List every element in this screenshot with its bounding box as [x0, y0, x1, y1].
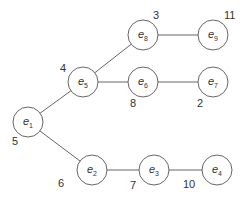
- node-e7: e7: [198, 67, 228, 97]
- node-e8: e8: [128, 20, 158, 50]
- weight-label-e8: 3: [153, 9, 159, 21]
- weight-label-e1: 5: [12, 135, 18, 147]
- node-subscript: 9: [214, 35, 218, 42]
- node-subscript: 3: [155, 170, 159, 177]
- node-subscript: 7: [214, 82, 218, 89]
- weight-label-e6: 8: [130, 97, 136, 109]
- edges-layer: [40, 35, 202, 170]
- node-e1: e1: [13, 107, 43, 137]
- node-e2: e2: [77, 155, 107, 185]
- node-subscript: 5: [84, 82, 88, 89]
- tree-diagram: e1e2e3e4e5e6e7e8e9 56710482311: [0, 0, 246, 197]
- node-subscript: 2: [93, 170, 97, 177]
- node-e4: e4: [202, 155, 232, 185]
- node-subscript: 1: [29, 122, 33, 129]
- weight-label-e7: 2: [197, 97, 203, 109]
- node-e9: e9: [198, 20, 228, 50]
- node-subscript: 6: [144, 82, 148, 89]
- node-e6: e6: [128, 67, 158, 97]
- node-e3: e3: [139, 155, 169, 185]
- node-subscript: 4: [218, 170, 222, 177]
- node-e5: e5: [68, 67, 98, 97]
- edge-e1-e5: [40, 91, 71, 113]
- weight-label-e2: 6: [58, 177, 64, 189]
- weight-label-e4: 10: [183, 178, 195, 190]
- edge-e1-e2: [40, 131, 80, 161]
- weight-label-e5: 4: [60, 62, 66, 74]
- weight-label-e9: 11: [224, 9, 235, 21]
- weight-label-e3: 7: [130, 179, 136, 191]
- node-subscript: 8: [144, 35, 148, 42]
- edge-e5-e8: [95, 44, 131, 73]
